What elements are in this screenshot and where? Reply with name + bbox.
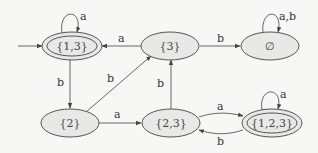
edge-s123-self: a bbox=[262, 88, 287, 110]
edge-s123-s23: b bbox=[199, 130, 243, 148]
state-empty: ∅ bbox=[241, 32, 299, 60]
state-label: ∅ bbox=[265, 40, 275, 53]
automaton-diagram: a a b a,b b b a b a b a {1 bbox=[0, 0, 318, 153]
state-s23: {2,3} bbox=[142, 109, 200, 137]
state-label: {2,3} bbox=[155, 117, 187, 130]
edge-label: a bbox=[118, 32, 125, 45]
state-s123: {1,2,3} bbox=[242, 109, 302, 137]
edge-label: b bbox=[57, 76, 64, 89]
edge-label: b bbox=[217, 32, 224, 45]
edge-s13-s2: b bbox=[57, 60, 70, 108]
state-label: {2} bbox=[60, 117, 81, 130]
edge-label: a bbox=[217, 100, 224, 113]
edge-label: b bbox=[217, 135, 224, 148]
state-label: {3} bbox=[160, 40, 181, 53]
state-label: {1,2,3} bbox=[251, 117, 293, 130]
edge-label: a bbox=[80, 10, 87, 23]
edge-s23-s123: a bbox=[199, 100, 243, 117]
edge-s23-s3: b bbox=[157, 60, 171, 109]
state-s13: {1,3} bbox=[42, 32, 102, 60]
edge-label: b bbox=[107, 72, 114, 85]
edge-label: a,b bbox=[279, 10, 296, 23]
state-label: {1,3} bbox=[56, 40, 88, 53]
edge-empty-self: a,b bbox=[263, 10, 296, 33]
edge-label: a bbox=[280, 88, 287, 101]
edge-s2-s3: b bbox=[86, 56, 151, 112]
state-s3: {3} bbox=[141, 32, 199, 60]
edge-label: b bbox=[157, 77, 164, 90]
edge-s2-s23: a bbox=[99, 108, 141, 123]
edge-s3-s13: a bbox=[102, 32, 141, 46]
state-s2: {2} bbox=[41, 109, 99, 137]
edge-s3-empty: b bbox=[200, 32, 240, 46]
edge-label: a bbox=[114, 108, 121, 121]
edge-s13-self: a bbox=[62, 10, 87, 33]
